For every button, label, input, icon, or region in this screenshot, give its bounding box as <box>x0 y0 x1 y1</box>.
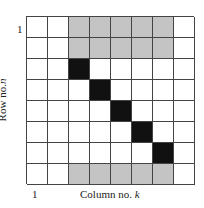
grid-cell-white <box>90 101 111 122</box>
y-axis-label-text: Row no. <box>0 84 8 121</box>
grid-cell-white <box>174 80 195 101</box>
grid-cell-white <box>174 164 195 185</box>
grid-cell-gray <box>69 164 90 185</box>
grid-cell-gray <box>111 17 132 38</box>
grid-cell-white <box>48 17 69 38</box>
grid-cell-white <box>174 59 195 80</box>
grid-cell-white <box>27 38 48 59</box>
y-axis-variable: n <box>0 79 8 85</box>
grid-cell-white <box>132 59 153 80</box>
grid-cell-white <box>174 122 195 143</box>
grid-cell-white <box>27 164 48 185</box>
grid-cell-gray <box>132 38 153 59</box>
grid-cell-white <box>90 143 111 164</box>
grid-cell-black <box>111 101 132 122</box>
column-index-start-label: 1 <box>32 188 38 200</box>
grid-cell-gray <box>90 164 111 185</box>
x-axis-label: Column no. k <box>80 188 140 200</box>
grid-cell-white <box>27 59 48 80</box>
grid-cell-white <box>27 101 48 122</box>
grid-cell-white <box>153 80 174 101</box>
grid-cell-white <box>111 80 132 101</box>
grid-cell-white <box>27 17 48 38</box>
grid-cell-white <box>48 101 69 122</box>
grid-cell-gray <box>69 17 90 38</box>
grid-cell-white <box>132 101 153 122</box>
grid-cell-gray <box>132 17 153 38</box>
grid-cell-gray <box>111 164 132 185</box>
grid-cell-white <box>153 59 174 80</box>
grid-cell-white <box>153 101 174 122</box>
grid-cell-white <box>48 38 69 59</box>
grid-cell-white <box>48 59 69 80</box>
grid-cell-gray <box>90 38 111 59</box>
x-axis-label-text: Column no. <box>80 188 135 200</box>
grid-cell-white <box>174 101 195 122</box>
grid-cell-white <box>48 143 69 164</box>
grid-cell-white <box>48 164 69 185</box>
grid-cell-white <box>69 143 90 164</box>
grid-cell-gray <box>69 38 90 59</box>
grid-cell-white <box>27 80 48 101</box>
grid-cell-white <box>111 59 132 80</box>
grid-cell-gray <box>111 38 132 59</box>
grid-cell-gray <box>153 38 174 59</box>
row-index-start-label: 1 <box>17 23 23 35</box>
grid-cell-white <box>174 17 195 38</box>
grid-cell-black <box>132 122 153 143</box>
grid-cell-white <box>174 38 195 59</box>
grid-cell-black <box>90 80 111 101</box>
grid-cell-gray <box>153 164 174 185</box>
grid-cell-white <box>48 122 69 143</box>
grid-cell-white <box>153 122 174 143</box>
grid-cell-white <box>27 143 48 164</box>
grid-cell-black <box>69 59 90 80</box>
grid-cell-white <box>90 59 111 80</box>
grid-cell-white <box>48 80 69 101</box>
matrix-grid <box>26 16 194 184</box>
grid-cell-white <box>90 122 111 143</box>
grid-cell-white <box>132 143 153 164</box>
x-axis-variable: k <box>135 188 140 200</box>
grid-cell-white <box>174 143 195 164</box>
grid-cell-white <box>27 122 48 143</box>
grid-cell-white <box>69 122 90 143</box>
grid-cell-white <box>111 122 132 143</box>
grid-cell-gray <box>153 17 174 38</box>
grid-cell-gray <box>90 17 111 38</box>
grid-cell-black <box>153 143 174 164</box>
grid-cell-gray <box>132 164 153 185</box>
grid-cell-white <box>69 80 90 101</box>
grid-cell-white <box>69 101 90 122</box>
grid-cell-white <box>111 143 132 164</box>
grid-cell-white <box>132 80 153 101</box>
